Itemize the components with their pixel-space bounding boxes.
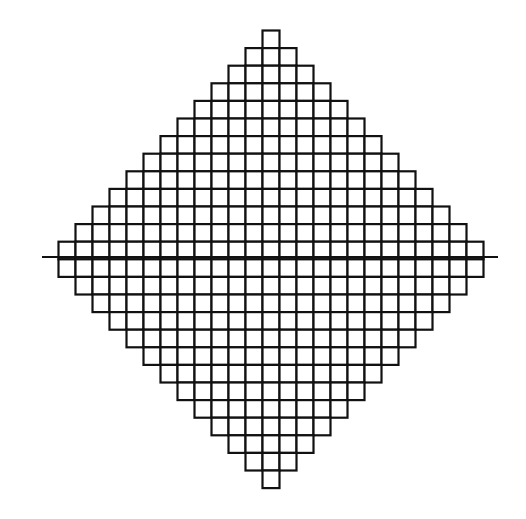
grid-cell [365, 224, 382, 242]
grid-cell [280, 224, 297, 242]
grid-cell [297, 312, 314, 330]
grid-cell [263, 277, 280, 295]
grid-cell [263, 259, 280, 277]
grid-cell [246, 171, 263, 189]
grid-cell [178, 171, 195, 189]
grid-cell [229, 119, 246, 137]
grid-cell [59, 259, 76, 277]
grid-cell [76, 224, 93, 242]
grid-cell [144, 312, 161, 330]
grid-cell [348, 347, 365, 365]
grid-cell [297, 418, 314, 436]
grid-cell [229, 295, 246, 313]
grid-cell [280, 295, 297, 313]
grid-cell [314, 83, 331, 101]
grid-cell [450, 224, 467, 242]
grid-cell [263, 224, 280, 242]
grid-cell [297, 400, 314, 418]
grid-cell [110, 189, 127, 207]
grid-cell [212, 207, 229, 225]
grid-cell [93, 224, 110, 242]
grid-cell [297, 66, 314, 84]
grid-cell [365, 171, 382, 189]
grid-cell [382, 259, 399, 277]
grid-cell [382, 312, 399, 330]
grid-cell [229, 136, 246, 154]
grid-cell [246, 189, 263, 207]
grid-cell [382, 154, 399, 172]
grid-cell [348, 365, 365, 383]
grid-cell [331, 365, 348, 383]
grid-cell [246, 119, 263, 137]
grid-cell [195, 365, 212, 383]
grid-cell [229, 435, 246, 453]
grid-cell [297, 259, 314, 277]
grid-cell [229, 259, 246, 277]
grid-cell [212, 330, 229, 348]
grid-cell [263, 400, 280, 418]
grid-cell [433, 259, 450, 277]
grid-cell [263, 330, 280, 348]
grid-cell [314, 330, 331, 348]
grid-cell [331, 312, 348, 330]
grid-cell [195, 312, 212, 330]
grid-cell [212, 365, 229, 383]
grid-cell [382, 207, 399, 225]
grid-cell [246, 48, 263, 66]
grid-cell [331, 330, 348, 348]
grid-cell [212, 224, 229, 242]
grid-cell [263, 48, 280, 66]
grid-cell [280, 207, 297, 225]
grid-cell [433, 207, 450, 225]
grid-cell [144, 259, 161, 277]
grid-cell [314, 295, 331, 313]
grid-cell [212, 154, 229, 172]
grid-cell [263, 171, 280, 189]
grid-cell [178, 295, 195, 313]
grid-cell [212, 83, 229, 101]
grid-cell [365, 189, 382, 207]
grid-cell [297, 154, 314, 172]
grid-cell [382, 189, 399, 207]
grid-cell [348, 224, 365, 242]
grid-cell [263, 119, 280, 137]
grid-cell [246, 453, 263, 471]
grid-cell [399, 277, 416, 295]
grid-cell [263, 189, 280, 207]
grid-cell [229, 330, 246, 348]
grid-cell [246, 295, 263, 313]
grid-cell [212, 189, 229, 207]
grid-cell [297, 224, 314, 242]
grid-cell [382, 347, 399, 365]
grid-cell [314, 101, 331, 119]
grid-cell [195, 277, 212, 295]
grid-cell [127, 171, 144, 189]
grid-cell [297, 136, 314, 154]
grid-cell [314, 224, 331, 242]
grid-cell [331, 101, 348, 119]
grid-cell [246, 136, 263, 154]
grid-cell [161, 154, 178, 172]
grid-cell [127, 259, 144, 277]
grid-cell [161, 171, 178, 189]
grid-cell [178, 365, 195, 383]
grid-cell [263, 312, 280, 330]
grid-cell [297, 207, 314, 225]
grid-cell [399, 259, 416, 277]
grid-cell [365, 154, 382, 172]
grid-cell [263, 154, 280, 172]
grid-cell [297, 189, 314, 207]
grid-cell [144, 295, 161, 313]
grid-cell [127, 330, 144, 348]
grid-cell [127, 277, 144, 295]
grid-cell [110, 224, 127, 242]
grid-cell [280, 119, 297, 137]
grid-cell [212, 295, 229, 313]
grid-cell [212, 400, 229, 418]
grid-cell [246, 400, 263, 418]
grid-cell [229, 418, 246, 436]
grid-cell [144, 277, 161, 295]
grid-cell [161, 259, 178, 277]
grid-cell [127, 189, 144, 207]
grid-cell [314, 119, 331, 137]
